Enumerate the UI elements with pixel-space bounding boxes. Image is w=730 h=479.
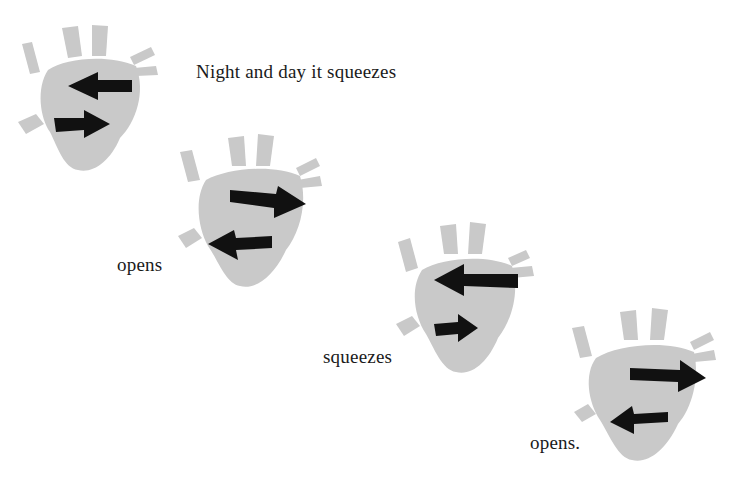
heart-illustration-3 [396,220,536,380]
heart-shape [178,134,322,287]
heart-shape [396,222,534,373]
caption-opens-1: opens [117,254,162,276]
storybook-page: Night and day it squeezes opens [0,0,730,479]
heart-illustration-2 [178,132,328,292]
heart-illustration-1 [18,22,163,177]
heart-shape [18,25,158,171]
heart-shape [572,308,716,461]
caption-opens-2: opens. [530,432,580,454]
caption-night-and-day: Night and day it squeezes [196,61,396,83]
heart-illustration-4 [572,304,722,466]
caption-squeezes: squeezes [323,346,392,368]
